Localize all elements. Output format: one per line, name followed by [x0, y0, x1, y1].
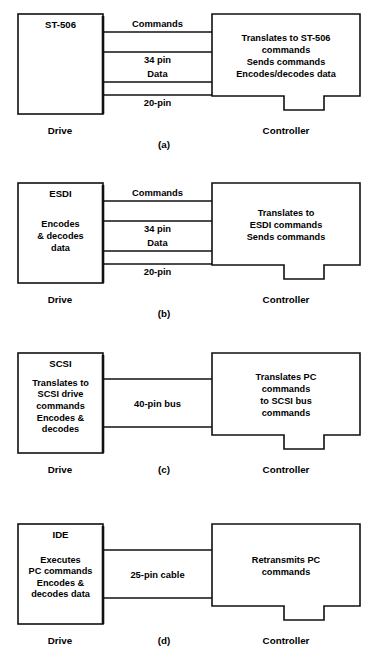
drive-body-line-b-2: data [51, 243, 71, 253]
drive-body-line-b-1: & decodes [37, 231, 83, 241]
wire-label-a-2: Data [147, 68, 168, 79]
wire-label-b-2: Data [147, 237, 168, 248]
drive-body-line-d-1: PC commands [29, 566, 93, 576]
diagram-canvas: ST-506Translates to ST-506commandsSends … [0, 0, 377, 664]
controller-body-line-a-3: Encodes/decodes data [236, 69, 336, 79]
drive-body-line-c-2: commands [36, 401, 85, 411]
panel-caption-a: (a) [158, 139, 170, 150]
drive-body-line-d-2: Encodes & [37, 578, 85, 588]
footer-controller-label-b: Controller [263, 294, 310, 305]
controller-body-line-c-1: commands [262, 384, 311, 394]
footer-drive-label-b: Drive [48, 294, 73, 305]
footer-controller-label-d: Controller [263, 635, 310, 646]
wire-label-b-3: 20-pin [144, 266, 172, 277]
footer-controller-label-a: Controller [263, 125, 310, 136]
controller-body-line-a-2: Sends commands [247, 57, 326, 67]
panel-caption-c: (c) [158, 464, 170, 475]
drive-body-line-c-1: SCSI drive [38, 389, 84, 399]
panel-d: IDEExecutesPC commandsEncodes &decodes d… [18, 524, 360, 646]
controller-body-line-a-1: commands [262, 45, 311, 55]
disk-interface-figure: ST-506Translates to ST-506commandsSends … [0, 0, 377, 664]
wire-label-b-1: 34 pin [144, 223, 171, 234]
drive-body-line-d-0: Executes [40, 555, 80, 565]
wire-label-d-0: 25-pin cable [130, 569, 184, 580]
controller-body-line-c-2: to SCSI bus [260, 396, 312, 406]
drive-title-c: SCSI [49, 358, 72, 369]
controller-body-line-b-2: Sends commands [247, 232, 326, 242]
wire-label-a-3: 20-pin [144, 97, 172, 108]
wire-label-a-1: 34 pin [144, 54, 171, 65]
footer-drive-label-c: Drive [48, 464, 73, 475]
drive-body-line-c-4: decodes [42, 424, 79, 434]
panel-caption-b: (b) [158, 308, 171, 319]
controller-body-line-b-1: ESDI commands [250, 220, 323, 230]
footer-controller-label-c: Controller [263, 464, 310, 475]
drive-body-line-c-3: Encodes & [37, 413, 85, 423]
drive-body-line-c-0: Translates to [32, 378, 89, 388]
controller-body-line-d-1: commands [262, 567, 311, 577]
drive-body-line-b-0: Encodes [41, 219, 79, 229]
wire-label-b-0: Commands [132, 187, 183, 198]
drive-title-d: IDE [53, 529, 70, 540]
controller-body-line-d-0: Retransmits PC [252, 555, 321, 565]
controller-body-line-a-0: Translates to ST-506 [242, 33, 331, 43]
drive-title-b: ESDI [49, 188, 72, 199]
drive-body-line-d-3: decodes data [31, 589, 91, 599]
wire-label-a-0: Commands [132, 18, 183, 29]
panel-a: ST-506Translates to ST-506commandsSends … [18, 14, 360, 150]
panel-caption-d: (d) [158, 635, 171, 646]
panel-c: SCSITranslates toSCSI drivecommandsEncod… [18, 353, 360, 475]
footer-drive-label-d: Drive [48, 635, 73, 646]
controller-body-line-b-0: Translates to [258, 208, 315, 218]
controller-body-line-c-3: commands [262, 408, 311, 418]
panel-b: ESDIEncodes& decodesdataTranslates toESD… [18, 183, 360, 319]
drive-title-a: ST-506 [45, 19, 76, 30]
controller-body-line-c-0: Translates PC [256, 372, 317, 382]
footer-drive-label-a: Drive [48, 125, 73, 136]
wire-label-c-0: 40-pin bus [134, 398, 181, 409]
